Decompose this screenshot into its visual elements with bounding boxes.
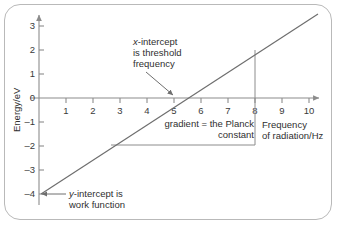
y-intercept-annotation: y-intercept is work function	[42, 188, 125, 210]
x-intercept-label-line1: x-intercept	[132, 36, 178, 47]
y-axis-title: Energy/eV	[11, 87, 22, 132]
x-intercept-arrow	[146, 72, 173, 95]
y-tick-3: 3	[30, 20, 35, 31]
x-axis-title-line1: Frequency	[262, 119, 307, 130]
x-intercept-rest: -intercept	[138, 36, 178, 47]
x-tick-3: 3	[117, 105, 122, 116]
x-intercept-label-line2: is threshold	[133, 47, 182, 58]
gradient-label-line2: constant	[218, 129, 254, 140]
y-tick-neg4: –4	[24, 188, 35, 199]
y-intercept-label-line1: y-intercept is	[68, 188, 123, 199]
gradient-annotation: gradient = the Planck constant	[164, 118, 254, 140]
gradient-label-line1: gradient = the Planck	[164, 118, 254, 129]
y-intercept-rest: -intercept is	[74, 188, 123, 199]
x-tick-2: 2	[90, 105, 95, 116]
y-intercept-label-line2: work function	[68, 199, 125, 210]
x-intercept-annotation: x-intercept is threshold frequency	[132, 36, 182, 95]
y-tick-2: 2	[30, 44, 35, 55]
x-tick-labels: 1 2 3 4 5 6 7 8 9 10	[63, 105, 314, 116]
x-axis-title-line2: of radiation/Hz	[262, 130, 324, 141]
y-tick-marks	[39, 26, 44, 194]
energy-frequency-line	[41, 14, 318, 194]
y-tick-1: 1	[30, 68, 35, 79]
y-tick-neg1: –1	[24, 116, 35, 127]
y-tick-labels: 3 2 1 0 –1 –2 –3 –4	[24, 20, 35, 199]
x-tick-9: 9	[279, 105, 284, 116]
x-tick-1: 1	[63, 105, 68, 116]
energy-frequency-graph: 1 2 3 4 5 6 7 8 9 10 3 2 1 0 –1 –2	[0, 0, 338, 226]
x-intercept-label-line3: frequency	[133, 58, 175, 69]
y-tick-neg2: –2	[24, 140, 35, 151]
x-tick-6: 6	[198, 105, 203, 116]
y-tick-0: 0	[30, 92, 35, 103]
x-tick-10: 10	[304, 105, 315, 116]
x-tick-4: 4	[144, 105, 149, 116]
figure-root: 1 2 3 4 5 6 7 8 9 10 3 2 1 0 –1 –2	[0, 0, 338, 226]
y-tick-neg3: –3	[24, 164, 35, 175]
x-tick-7: 7	[225, 105, 230, 116]
